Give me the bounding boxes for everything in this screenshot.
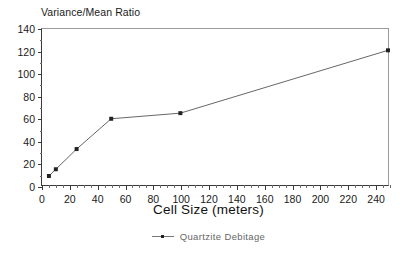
data-point-marker [47,174,51,178]
x-axis-tick [293,185,294,190]
x-axis-minor-tick [258,185,259,188]
data-point-marker [109,117,113,121]
x-axis-minor-tick [105,185,106,188]
x-axis-tick [70,185,71,190]
x-axis-minor-tick [202,185,203,188]
plot-area: 0204060801001201400204060801001201401601… [41,28,389,186]
x-axis-minor-tick [244,185,245,188]
x-axis-minor-tick [119,185,120,188]
chart-legend: Quartzite Debitage [0,231,417,242]
y-axis-minor-tick [40,153,42,154]
y-axis-tick-label: 80 [5,91,35,103]
x-axis-minor-tick [362,185,363,188]
x-axis-minor-tick [300,185,301,188]
x-axis-minor-tick [56,185,57,188]
x-axis-minor-tick [355,185,356,188]
x-axis-tick [42,185,43,190]
x-axis-minor-tick [341,185,342,188]
x-axis-minor-tick [334,185,335,188]
legend-item-label: Quartzite Debitage [180,231,266,242]
y-axis-tick-label: 20 [5,158,35,170]
x-axis-minor-tick [223,185,224,188]
y-axis-caption: Variance/Mean Ratio [41,6,140,18]
x-axis-tick [153,185,154,190]
x-axis-minor-tick [84,185,85,188]
x-axis-minor-tick [313,185,314,188]
y-axis-tick-label: 120 [5,46,35,58]
series-line [49,50,388,176]
x-axis-tick [265,185,266,190]
y-axis-tick [38,164,42,165]
x-axis-minor-tick [167,185,168,188]
x-axis-minor-tick [132,185,133,188]
y-axis-minor-tick [40,131,42,132]
y-axis-minor-tick [40,176,42,177]
y-axis-minor-tick [40,85,42,86]
y-axis-tick-label: 140 [5,23,35,35]
x-axis-minor-tick [369,185,370,188]
x-axis-minor-tick [390,185,391,188]
x-axis-minor-tick [195,185,196,188]
y-axis-tick-label: 0 [5,181,35,193]
data-point-marker [386,48,390,52]
y-axis-minor-tick [40,108,42,109]
x-axis-minor-tick [383,185,384,188]
x-axis-tick [320,185,321,190]
y-axis-tick [38,142,42,143]
x-axis-minor-tick [91,185,92,188]
x-axis-minor-tick [216,185,217,188]
x-axis-minor-tick [174,185,175,188]
x-axis-minor-tick [188,185,189,188]
x-axis-minor-tick [272,185,273,188]
plot-inner: 0204060801001201400204060801001201401601… [42,29,388,185]
x-axis-minor-tick [160,185,161,188]
x-axis-title: Cell Size (meters) [0,202,417,217]
y-axis-tick [38,29,42,30]
series-quartzite-debitage [42,29,388,186]
y-axis-tick [38,52,42,53]
x-axis-minor-tick [251,185,252,188]
x-axis-minor-tick [63,185,64,188]
y-axis-tick [38,74,42,75]
y-axis-tick-label: 40 [5,136,35,148]
x-axis-minor-tick [286,185,287,188]
data-point-marker [75,147,79,151]
x-axis-tick [348,185,349,190]
x-axis-tick [126,185,127,190]
chart-container: Variance/Mean Ratio 02040608010012014002… [0,0,417,259]
x-axis-tick [181,185,182,190]
x-axis-minor-tick [306,185,307,188]
x-axis-tick [376,185,377,190]
x-axis-minor-tick [49,185,50,188]
data-point-marker [178,111,182,115]
x-axis-minor-tick [77,185,78,188]
data-point-marker [54,167,58,171]
x-axis-minor-tick [112,185,113,188]
y-axis-tick [38,97,42,98]
x-axis-minor-tick [146,185,147,188]
x-axis-tick [237,185,238,190]
y-axis-tick-label: 60 [5,113,35,125]
y-axis-minor-tick [40,40,42,41]
x-axis-tick [98,185,99,190]
legend-marker-icon [152,232,174,241]
y-axis-minor-tick [40,63,42,64]
x-axis-minor-tick [230,185,231,188]
legend-square-marker-icon [161,235,164,238]
y-axis-tick [38,119,42,120]
x-axis-minor-tick [327,185,328,188]
x-axis-minor-tick [279,185,280,188]
y-axis-tick-label: 100 [5,68,35,80]
x-axis-minor-tick [139,185,140,188]
x-axis-tick [209,185,210,190]
